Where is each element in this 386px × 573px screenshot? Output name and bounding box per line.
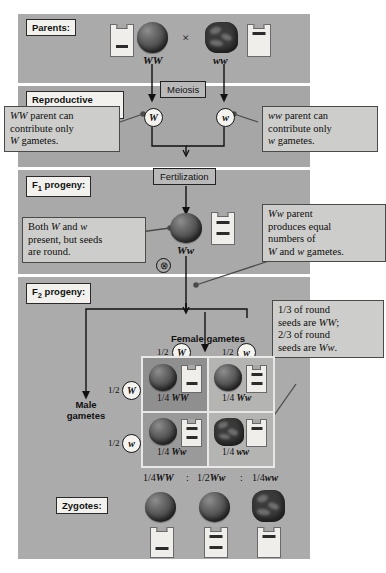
- callout-left-top-l2: contribute only: [10, 123, 74, 134]
- callout-f2-l2a: seeds are: [278, 317, 319, 328]
- seed-f1-round: [170, 213, 202, 243]
- punnett-label-Ww-2: 1/4 Ww: [157, 447, 186, 457]
- callout-f1-allele-w: w: [80, 221, 87, 232]
- callout-f1r-and: and: [277, 246, 297, 257]
- zygote-ratio-sep-2: :: [240, 472, 243, 483]
- label-reproductive-line1: Reproductive: [32, 94, 93, 105]
- packet-bar: [217, 232, 230, 235]
- callout-f1-allele-W: W: [51, 221, 60, 232]
- punnett-label-Ww-1: 1/4 Ww: [222, 393, 251, 403]
- packet-WW: [181, 365, 202, 393]
- label-parents: Parents:: [26, 19, 76, 36]
- callout-f1-l3: are round.: [28, 246, 71, 257]
- male-gametes-line2: gametes: [67, 410, 106, 421]
- punnett-label-ww: 1/4 ww: [222, 447, 249, 457]
- callout-left-top-allele: W: [10, 135, 19, 146]
- packet-bar: [217, 221, 230, 224]
- callout-f2-l1: of round: [291, 304, 330, 315]
- packet-bar: [251, 427, 262, 430]
- seed-zygote-Ww: [199, 492, 230, 522]
- packet-zygote-ww: [257, 527, 281, 558]
- callout-f1-left: Both W and w present, but seeds are roun…: [22, 217, 146, 263]
- callout-f2-ratio: 1/3 of round seeds are WW; 2/3 of round …: [272, 300, 384, 358]
- punnett-geno-3: ww: [237, 447, 250, 457]
- callout-f1-right: Ww parent produces equal numbers of W an…: [262, 204, 386, 262]
- seed-zygote-WW: [145, 492, 176, 522]
- genotype-parent-right: ww: [213, 54, 228, 66]
- seed-Ww-round-1: [214, 364, 242, 391]
- packet-bar: [210, 546, 223, 549]
- packet-bar: [186, 436, 197, 439]
- cross-symbol: ×: [182, 30, 189, 46]
- callout-f1r-genotype: Ww: [268, 208, 284, 219]
- punnett-frac-1: 1/4: [222, 393, 234, 403]
- packet-bar: [251, 373, 262, 376]
- callout-f2-l4a: seeds are: [278, 342, 319, 353]
- packet-notch: [210, 527, 221, 532]
- zygote-frac-2: 1/4: [252, 472, 265, 483]
- packet-notch: [187, 365, 197, 370]
- callout-f1-l2: present, but seeds: [28, 234, 102, 245]
- punnett-square: 1/4 WW 1/4 Ww 1/4 Ww: [141, 356, 275, 468]
- punnett-frac-0: 1/4: [157, 393, 169, 403]
- seed-Ww-round-2: [149, 418, 177, 445]
- meiosis-box: Meiosis: [160, 81, 206, 98]
- packet-bar: [116, 45, 128, 48]
- packet-notch: [217, 212, 228, 217]
- packet-ww: [246, 419, 267, 447]
- f1-suffix: progeny:: [42, 179, 85, 190]
- zygote-ratio-1: 1/4WW: [143, 472, 174, 483]
- punnett-cell-ww: 1/4 ww: [209, 413, 273, 466]
- label-zygotes: Zygotes:: [56, 497, 108, 514]
- punnett-cell-Ww-1: 1/4 Ww: [209, 358, 273, 411]
- punnett-geno-2: Ww: [172, 447, 187, 457]
- callout-f2-l3: of round: [291, 329, 330, 340]
- punnett-cell-WW: 1/4 WW: [143, 358, 207, 411]
- packet-notch: [187, 419, 197, 424]
- zygote-frac-0: 1/4: [143, 472, 156, 483]
- callout-f1-and: and: [60, 221, 80, 232]
- punnett-geno-0: WW: [172, 393, 189, 403]
- callout-f1r-l1: parent: [284, 208, 313, 219]
- callout-left-top-l3: gametes.: [19, 135, 59, 146]
- male-gamete-circle-2: w: [122, 434, 141, 453]
- callout-right-top-l2: contribute only: [268, 123, 332, 134]
- label-f2-progeny: F2 progeny:: [26, 283, 91, 304]
- callout-f1r-allele-W: W: [268, 246, 277, 257]
- punnett-frac-2: 1/4: [157, 447, 169, 457]
- packet-notch: [252, 365, 262, 370]
- callout-f2-geno-Ww: Ww: [319, 342, 335, 353]
- callout-f1r-l3: numbers of: [268, 233, 316, 244]
- male-gamete-fraction-1: 1/2: [108, 385, 120, 395]
- self-cross-icon: ⊗: [156, 258, 171, 273]
- zygote-ratio-3: 1/4ww: [252, 472, 278, 483]
- wrinkle-1: [209, 25, 222, 35]
- packet-zygote-Ww: [204, 527, 228, 558]
- punnett-geno-1: Ww: [237, 393, 252, 403]
- seed-parent-wrinkled: [205, 22, 238, 53]
- packet-bar: [210, 535, 223, 538]
- callout-f2-frac1: 1/3: [278, 304, 291, 315]
- callout-f1r-l2: produces equal: [268, 221, 331, 232]
- callout-ww-parent-left: WW parent can contribute only W gametes.: [4, 106, 120, 152]
- packet-bar: [253, 32, 266, 35]
- packet-notch: [252, 419, 262, 424]
- packet-notch: [263, 527, 274, 532]
- label-male-gametes: Male gametes: [62, 399, 110, 421]
- punnett-label-WW: 1/4 WW: [157, 393, 188, 403]
- zygote-geno-1: Ww: [210, 472, 226, 483]
- male-gamete-fraction-2: 1/2: [108, 438, 120, 448]
- wrinkle-3: [257, 508, 270, 515]
- wrinkle-3: [219, 433, 231, 440]
- zygote-ratio-sep-1: :: [186, 472, 189, 483]
- gamete-circle-w: w: [216, 108, 235, 127]
- label-f1-progeny: F1 progeny:: [26, 176, 91, 197]
- callout-ww-parent-right: ww parent can contribute only w gametes.: [262, 106, 378, 152]
- callout-left-top-genotype: WW: [10, 110, 28, 121]
- zygote-frac-1: 1/2: [197, 472, 210, 483]
- packet-bar: [251, 382, 262, 385]
- packet-parent-round: [110, 24, 134, 57]
- genotype-f1: Ww: [177, 244, 194, 256]
- genotype-parent-left: WW: [143, 54, 163, 66]
- male-gametes-line1: Male: [75, 399, 96, 410]
